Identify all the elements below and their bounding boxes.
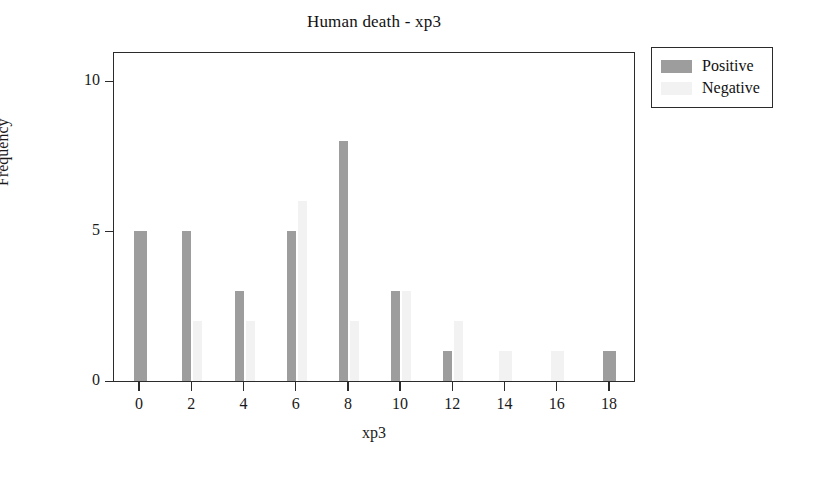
legend-label-negative: Negative	[702, 79, 760, 97]
positive-swatch-icon	[661, 60, 692, 73]
y-tick-label: 10	[60, 71, 100, 89]
x-tick-label: 2	[171, 395, 211, 413]
x-tick-mark	[452, 382, 453, 391]
legend-item-positive: Positive	[661, 55, 760, 77]
x-tick-mark	[243, 382, 244, 391]
y-tick-mark	[105, 81, 114, 82]
plot-frame	[113, 52, 635, 382]
negative-swatch-icon	[661, 82, 692, 95]
x-tick-label: 4	[224, 395, 264, 413]
x-axis-label: xp3	[113, 424, 635, 442]
bar-negative-12	[454, 321, 463, 381]
x-tick-label: 0	[119, 395, 159, 413]
x-tick-mark	[191, 382, 192, 391]
x-tick-mark	[347, 382, 348, 391]
x-tick-label: 18	[589, 395, 629, 413]
y-axis-label: Frequency	[0, 118, 12, 186]
plot-area	[114, 53, 634, 381]
bar-positive-6	[287, 231, 296, 381]
y-tick-label: 5	[60, 221, 100, 239]
x-tick-label: 12	[432, 395, 472, 413]
bar-positive-18	[603, 351, 616, 381]
x-tick-label: 14	[485, 395, 525, 413]
y-tick-mark	[105, 381, 114, 382]
x-tick-mark	[295, 382, 296, 391]
bar-negative-6	[298, 201, 307, 381]
x-tick-label: 16	[537, 395, 577, 413]
bar-negative-16	[551, 351, 564, 381]
bar-negative-4	[246, 321, 255, 381]
x-tick-mark	[608, 382, 609, 391]
bar-positive-12	[443, 351, 452, 381]
legend-item-negative: Negative	[661, 77, 760, 99]
chart-legend: Positive Negative	[651, 47, 773, 108]
x-tick-mark	[556, 382, 557, 391]
x-tick-mark	[138, 382, 139, 391]
bar-positive-0	[134, 231, 147, 381]
bar-positive-4	[235, 291, 244, 381]
bar-negative-10	[402, 291, 411, 381]
legend-label-positive: Positive	[702, 57, 754, 75]
bar-positive-10	[391, 291, 400, 381]
bar-negative-8	[350, 321, 359, 381]
bar-positive-8	[339, 141, 348, 381]
chart-title: Human death - xp3	[113, 12, 635, 32]
x-tick-label: 10	[380, 395, 420, 413]
chart-figure: Human death - xp3 Frequency 051002468101…	[0, 0, 838, 484]
x-tick-label: 6	[276, 395, 316, 413]
x-tick-mark	[504, 382, 505, 391]
y-tick-label: 0	[60, 371, 100, 389]
x-tick-mark	[399, 382, 400, 391]
bar-positive-2	[182, 231, 191, 381]
bar-negative-14	[499, 351, 512, 381]
bar-negative-2	[193, 321, 202, 381]
y-tick-mark	[105, 231, 114, 232]
x-tick-label: 8	[328, 395, 368, 413]
